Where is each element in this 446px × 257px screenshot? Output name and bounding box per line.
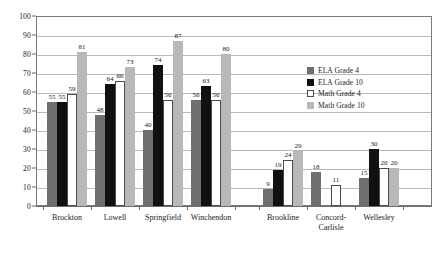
bar[interactable] [293, 151, 303, 206]
bar-slot: 73 [125, 16, 135, 206]
x-axis-category-label: Wellesley [363, 213, 394, 223]
bar-slot: 20 [379, 16, 389, 206]
legend: ELA Grade 4ELA Grade 10Math Grade 4Math … [307, 66, 365, 110]
bar-slot: 87 [173, 16, 183, 206]
bar-groups: 5555598148646673407456875663568091924291… [36, 16, 432, 206]
bar-value-label: 55 [58, 93, 65, 101]
bar-slot: 48 [95, 16, 105, 206]
bar-value-label: 63 [202, 77, 209, 85]
bar[interactable] [67, 94, 77, 206]
legend-item-label: Math Grade 10 [318, 101, 365, 110]
x-axis-tick-mark [91, 206, 92, 210]
bar[interactable] [191, 100, 201, 206]
bar[interactable] [273, 170, 283, 206]
bar-value-label: 15 [360, 169, 367, 177]
bar[interactable] [77, 52, 87, 206]
bar[interactable] [163, 100, 173, 206]
x-axis-tick-mark [139, 206, 140, 210]
legend-item[interactable]: ELA Grade 10 [307, 78, 365, 87]
bar-value-label: 11 [333, 176, 340, 184]
legend-swatch-icon [307, 102, 314, 109]
bar-slot: 55 [57, 16, 67, 206]
legend-item[interactable]: Math Grade 4 [307, 89, 365, 98]
bar-value-label: 66 [116, 72, 123, 80]
bar[interactable] [369, 149, 379, 206]
bar-value-label: 20 [390, 159, 397, 167]
bar-slot: 29 [293, 16, 303, 206]
x-axis-tick-mark [187, 206, 188, 210]
legend-item-label: Math Grade 4 [318, 89, 361, 98]
bar[interactable] [221, 54, 231, 206]
bar[interactable] [331, 185, 341, 206]
bar-value-label: 9 [266, 180, 270, 188]
bar-value-label: 20 [380, 159, 387, 167]
bar[interactable] [263, 189, 273, 206]
bar[interactable] [389, 168, 399, 206]
bar-slot: 81 [77, 16, 87, 206]
y-axis-tick-label: 20 [23, 164, 31, 173]
x-axis-tick-mark [355, 206, 356, 210]
bar-slot: 40 [143, 16, 153, 206]
y-axis-tick-label: 80 [23, 50, 31, 59]
bar[interactable] [143, 130, 153, 206]
y-axis-tick-label: 90 [23, 31, 31, 40]
bar[interactable] [125, 67, 135, 206]
x-axis-line [36, 206, 432, 207]
bar[interactable] [283, 160, 293, 206]
bar-value-label: 18 [312, 163, 319, 171]
bar[interactable] [359, 178, 369, 207]
x-axis-category-label: Brockton [52, 213, 82, 223]
bar[interactable] [173, 41, 183, 206]
legend-item[interactable]: Math Grade 10 [307, 101, 365, 110]
bar[interactable] [57, 102, 67, 207]
bar-slot: 56 [191, 16, 201, 206]
legend-item-label: ELA Grade 10 [318, 78, 363, 87]
y-axis-tick-label: 60 [23, 88, 31, 97]
legend-item[interactable]: ELA Grade 4 [307, 66, 365, 75]
bar-slot: 56 [163, 16, 173, 206]
bar-value-label: 24 [284, 151, 291, 159]
legend-item-label: ELA Grade 4 [318, 66, 359, 75]
bar[interactable] [115, 81, 125, 206]
y-axis-tick-label: 40 [23, 126, 31, 135]
legend-swatch-icon [307, 67, 314, 74]
legend-swatch-icon [307, 90, 314, 97]
bar-slot: 66 [115, 16, 125, 206]
bar[interactable] [311, 172, 321, 206]
bar[interactable] [201, 86, 211, 206]
y-axis-tick-label: 50 [23, 107, 31, 116]
bar[interactable] [379, 168, 389, 206]
bar-value-label: 40 [144, 121, 151, 129]
x-axis: BrocktonLowellSpringfieldWinchendonBrook… [36, 206, 432, 252]
bar[interactable] [47, 102, 57, 207]
bar[interactable] [211, 100, 221, 206]
bar-group: 15302020 [355, 16, 403, 206]
legend-swatch-icon [307, 79, 314, 86]
bar-slot: 74 [153, 16, 163, 206]
x-axis-category-label: Brookline [267, 213, 299, 223]
bar-slot: 15 [359, 16, 369, 206]
x-axis-tick-mark [235, 206, 236, 210]
x-axis-tick-mark [403, 206, 404, 210]
bar-slot: 55 [47, 16, 57, 206]
bar-value-label: 73 [126, 58, 133, 66]
bar-value-label: 81 [78, 43, 85, 51]
y-axis-tick-label: 10 [23, 183, 31, 192]
x-axis-tick-mark [259, 206, 260, 210]
x-axis-category-label: Winchendon [191, 213, 232, 223]
bar[interactable] [95, 115, 105, 206]
bar[interactable] [153, 65, 163, 206]
x-axis-tick-mark [43, 206, 44, 210]
bar-slot: 11 [331, 16, 341, 206]
bar-value-label: 64 [106, 75, 113, 83]
bar-group: 55555981 [43, 16, 91, 206]
bar-value-label: 80 [222, 45, 229, 53]
bar-value-label: 19 [274, 161, 281, 169]
bar-value-label: 55 [48, 93, 55, 101]
bar-slot [321, 16, 331, 206]
bar-value-label: 74 [154, 56, 161, 64]
bar-slot: 19 [273, 16, 283, 206]
bar-group: 40745687 [139, 16, 187, 206]
bar[interactable] [105, 84, 115, 206]
bar-group: 48646673 [91, 16, 139, 206]
